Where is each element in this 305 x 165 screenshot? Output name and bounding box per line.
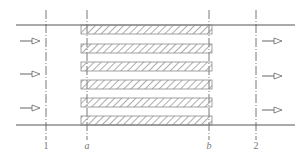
- section-label-a: a: [85, 140, 90, 151]
- arrow-head-icon: [274, 107, 282, 113]
- plate-1: [81, 25, 212, 34]
- arrow-head-icon: [274, 38, 282, 44]
- inlet-arrow-2: [20, 71, 40, 77]
- plate-5: [81, 98, 212, 107]
- section-label-1: 1: [44, 140, 49, 151]
- inlet-arrow-1: [20, 38, 40, 44]
- plate-2: [81, 44, 212, 53]
- arrow-head-icon: [32, 105, 40, 111]
- outlet-arrow-1: [262, 38, 282, 44]
- plate-6: [81, 116, 212, 125]
- arrow-head-icon: [32, 71, 40, 77]
- plate-3: [81, 62, 212, 71]
- channel-walls: [16, 25, 295, 125]
- hatched-plates: [81, 25, 212, 125]
- section-label-b: b: [207, 140, 212, 151]
- inlet-arrow-3: [20, 105, 40, 111]
- section-label-2: 2: [254, 140, 259, 151]
- arrow-head-icon: [32, 38, 40, 44]
- plate-4: [81, 80, 212, 89]
- outlet-arrow-3: [262, 107, 282, 113]
- outlet-arrow-2: [262, 73, 282, 79]
- arrow-head-icon: [274, 73, 282, 79]
